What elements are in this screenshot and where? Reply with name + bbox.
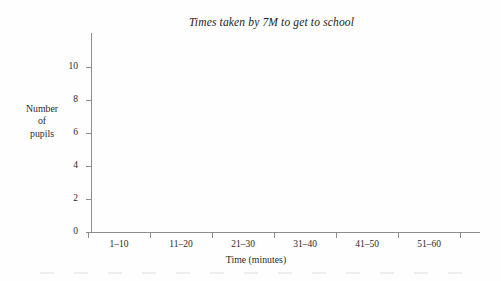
y-tick-label-2: 2 [52,194,78,204]
scan-artifact-band [40,272,470,274]
x-category-label-1-10: 1–10 [88,240,150,250]
y-tick-10 [86,67,91,68]
y-tick-label-8: 8 [52,95,78,105]
y-axis-title-line-2: of [10,115,74,127]
x-tick-boundary-1 [150,233,151,238]
y-tick-label-0: 0 [52,227,78,237]
x-category-label-11-20: 11–20 [150,240,212,250]
x-tick-boundary-5 [398,233,399,238]
x-tick-boundary-2 [212,233,213,238]
y-tick-4 [86,166,91,167]
x-tick-boundary-3 [274,233,275,238]
x-axis-title: Time (minutes) [91,254,421,265]
x-tick-boundary-0 [88,233,89,238]
y-axis-title-line-1: Number [10,103,74,115]
x-tick-boundary-4 [336,233,337,238]
x-category-label-41-50: 41–50 [336,240,398,250]
chart-title: Times taken by 7M to get to school [0,16,501,28]
y-tick-label-4: 4 [52,161,78,171]
chart-figure: Times taken by 7M to get to school Numbe… [0,0,501,281]
plot-area [92,33,480,232]
y-tick-label-10: 10 [52,62,78,72]
y-tick-6 [86,133,91,134]
y-tick-label-6: 6 [52,128,78,138]
x-category-label-51-60: 51–60 [398,240,460,250]
x-tick-boundary-6 [460,233,461,238]
x-category-label-21-30: 21–30 [212,240,274,250]
y-tick-8 [86,100,91,101]
x-category-label-31-40: 31–40 [274,240,336,250]
y-tick-2 [86,199,91,200]
